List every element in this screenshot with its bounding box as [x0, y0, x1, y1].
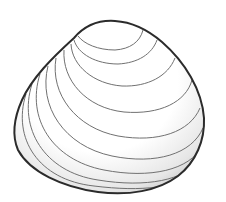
- shell-icon: [0, 0, 226, 202]
- shell-illustration: [0, 0, 226, 202]
